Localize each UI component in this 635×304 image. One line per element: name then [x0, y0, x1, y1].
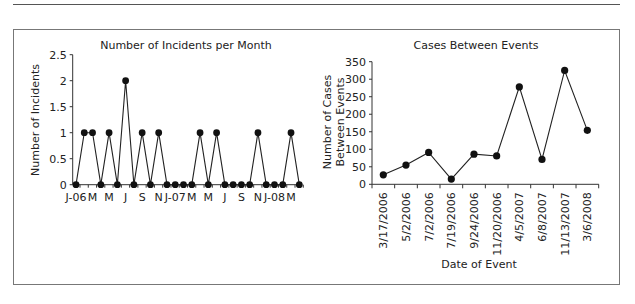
data-point — [493, 152, 500, 159]
data-point — [584, 127, 591, 134]
data-point — [197, 129, 204, 136]
data-point — [246, 181, 253, 188]
x-tick-label: 6/8/2007 — [536, 192, 549, 241]
chart-title: Cases Between Events — [413, 39, 538, 52]
data-point — [271, 181, 278, 188]
y-tick-label: 1.5 — [49, 101, 67, 114]
data-series — [73, 77, 303, 188]
data-point — [89, 129, 96, 136]
charts-canvas: Number of Incidents per Month Number of … — [0, 0, 635, 304]
data-point — [402, 161, 409, 168]
x-tick-label: J — [222, 191, 226, 204]
data-point — [425, 149, 432, 156]
x-tick-label: J-08 — [263, 191, 285, 204]
chart-title: Number of Incidents per Month — [100, 39, 272, 52]
data-point — [238, 181, 245, 188]
x-tick-label: S — [238, 191, 245, 204]
data-point — [139, 129, 146, 136]
data-point — [114, 181, 121, 188]
x-tick-label: N — [254, 191, 262, 204]
data-point — [380, 171, 387, 178]
incidents-per-month-chart: Number of Incidents per Month Number of … — [29, 39, 303, 204]
x-tick-label: J — [123, 191, 127, 204]
y-tick-label: 150 — [345, 126, 366, 139]
x-tick-label: M — [187, 191, 197, 204]
data-point — [221, 181, 228, 188]
data-point — [255, 129, 262, 136]
x-tick-label: M — [286, 191, 296, 204]
x-tick-label: 11/20/2006 — [491, 192, 504, 255]
data-point — [538, 156, 545, 163]
data-point — [122, 77, 129, 84]
x-tick-label: 3/17/2006 — [377, 192, 390, 248]
data-point — [288, 129, 295, 136]
data-point — [73, 181, 80, 188]
y-tick-label: 50 — [352, 161, 366, 174]
data-point — [230, 181, 237, 188]
series-line — [383, 70, 587, 179]
x-tick-label: 7/19/2006 — [445, 192, 458, 248]
x-tick-label: 9/24/2006 — [468, 192, 481, 248]
y-tick-label: 300 — [345, 73, 366, 86]
x-tick-label: 7/2/2006 — [423, 192, 436, 241]
y-tick-label: 100 — [345, 143, 366, 156]
y-tick-label: 250 — [345, 91, 366, 104]
data-point — [296, 181, 303, 188]
data-point — [188, 181, 195, 188]
x-tick-label: N — [155, 191, 163, 204]
data-point — [106, 129, 113, 136]
y-tick-label: 0.5 — [49, 153, 67, 166]
x-tick-label: S — [139, 191, 146, 204]
data-point — [155, 129, 162, 136]
y-axis-label: Number of Incidents — [29, 64, 42, 176]
data-point — [147, 181, 154, 188]
x-axis-label: Date of Event — [441, 258, 517, 271]
data-point — [130, 181, 137, 188]
x-tick-label: M — [104, 191, 114, 204]
data-point — [205, 181, 212, 188]
y-tick-label: 350 — [345, 56, 366, 69]
x-tick-label: J-06 — [65, 191, 87, 204]
x-tick-label: 3/6/2008 — [581, 192, 594, 241]
x-tick-label: M — [204, 191, 214, 204]
y-tick-label: 2 — [60, 75, 67, 88]
data-point — [516, 83, 523, 90]
x-tick-label: J-07 — [164, 191, 186, 204]
data-point — [213, 129, 220, 136]
data-point — [561, 67, 568, 74]
data-point — [263, 181, 270, 188]
y-tick-label: 200 — [345, 108, 366, 121]
data-point — [164, 181, 171, 188]
x-tick-label: 4/5/2007 — [513, 192, 526, 241]
x-tick-label: M — [88, 191, 98, 204]
x-tick-label: 5/2/2006 — [400, 192, 413, 241]
data-series — [380, 67, 591, 183]
y-tick-label: 0 — [359, 178, 366, 191]
data-point — [81, 129, 88, 136]
x-tick-label: 11/13/2007 — [559, 192, 572, 255]
y-tick-label: 1 — [60, 127, 67, 140]
data-point — [97, 181, 104, 188]
data-point — [172, 181, 179, 188]
data-point — [470, 151, 477, 158]
y-tick-label: 2.5 — [49, 49, 67, 62]
cases-between-events-chart: Cases Between Events Number of Cases Bet… — [321, 39, 599, 271]
y-axis-label-line-1: Number of Cases — [321, 75, 334, 170]
data-point — [448, 175, 455, 182]
data-point — [279, 181, 286, 188]
data-point — [180, 181, 187, 188]
